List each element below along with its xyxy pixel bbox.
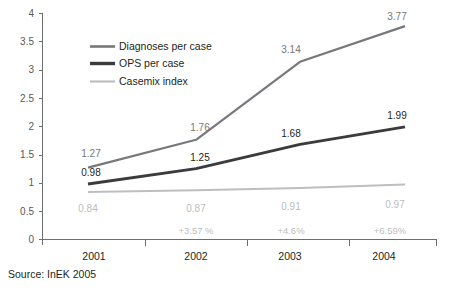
data-label-casemix-2003: 0.91 (281, 201, 301, 212)
growth-label-2002: +3.57 % (178, 225, 214, 236)
data-label-diagnoses-2001: 1.27 (81, 148, 101, 159)
data-label-ops-2001: 0.98 (81, 167, 101, 178)
data-labels-ops: 0.98 1.25 1.68 1.99 (81, 110, 407, 178)
data-label-diagnoses-2002: 1.76 (190, 122, 210, 133)
chart-container: 4 3.5 3 2.5 2 1.5 1 0.5 0 2001 2002 2003… (0, 0, 452, 297)
source-note: Source: InEK 2005 (8, 268, 96, 280)
x-tick-label-2001: 2001 (82, 250, 106, 262)
y-tick-label-2: 2 (28, 121, 34, 132)
legend-item-casemix-index[interactable]: Casemix index (90, 75, 189, 87)
legend-label-ops: OPS per case (119, 57, 185, 69)
y-axis: 4 3.5 3 2.5 2 1.5 1 0.5 0 (20, 8, 42, 245)
y-tick-label-1: 1 (28, 177, 34, 188)
y-tick-label-3: 3 (28, 64, 34, 75)
x-tick-label-2004: 2004 (372, 250, 396, 262)
data-label-ops-2004: 1.99 (387, 110, 407, 121)
data-label-casemix-2004: 0.97 (385, 199, 405, 210)
series-line-casemix-index (88, 185, 405, 192)
x-tick-label-2002: 2002 (184, 250, 208, 262)
data-label-ops-2003: 1.68 (281, 128, 301, 139)
growth-label-2004: +6.59% (374, 225, 407, 236)
growth-annotations: +3.57 % +4.6% +6.59% (178, 225, 406, 236)
data-label-casemix-2001: 0.84 (78, 203, 98, 214)
data-labels-casemix: 0.84 0.87 0.91 0.97 (78, 199, 405, 214)
data-label-diagnoses-2004: 3.77 (387, 11, 407, 22)
x-axis: 2001 2002 2003 2004 (43, 235, 438, 263)
y-tick-label-0: 0 (28, 234, 34, 245)
legend-item-diagnoses-per-case[interactable]: Diagnoses per case (90, 40, 212, 52)
legend-label-diagnoses: Diagnoses per case (119, 40, 212, 52)
legend-label-casemix: Casemix index (119, 75, 189, 87)
y-tick-label-2_5: 2.5 (20, 93, 34, 104)
y-tick-label-4: 4 (28, 8, 34, 19)
chart-legend: Diagnoses per case OPS per case Casemix … (90, 40, 212, 87)
data-label-casemix-2002: 0.87 (186, 203, 206, 214)
data-label-ops-2002: 1.25 (190, 152, 210, 163)
y-tick-label-3_5: 3.5 (20, 36, 34, 47)
legend-item-ops-per-case[interactable]: OPS per case (90, 57, 185, 69)
y-tick-label-1_5: 1.5 (20, 149, 34, 160)
y-tick-label-0_5: 0.5 (20, 206, 34, 217)
line-chart: 4 3.5 3 2.5 2 1.5 1 0.5 0 2001 2002 2003… (0, 0, 452, 297)
x-tick-label-2003: 2003 (278, 250, 302, 262)
data-label-diagnoses-2003: 3.14 (281, 44, 301, 55)
growth-label-2003: +4.6% (277, 225, 305, 236)
